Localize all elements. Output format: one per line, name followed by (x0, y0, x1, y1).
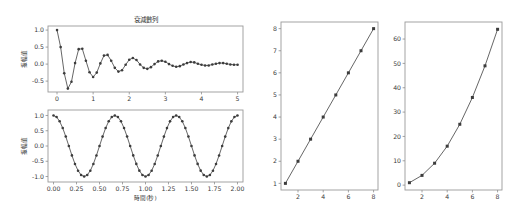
data-marker (236, 114, 239, 117)
data-marker (221, 145, 224, 148)
data-marker (446, 145, 449, 148)
data-marker (104, 127, 107, 130)
x-tick-label: 2.00 (231, 185, 245, 192)
y-tick-label: -0.5 (32, 157, 44, 164)
data-marker (68, 145, 71, 148)
data-marker (169, 120, 172, 123)
data-marker (144, 175, 147, 178)
plot-title: 衰減數列 (134, 15, 158, 24)
data-marker (372, 27, 375, 30)
data-marker (233, 116, 236, 119)
data-line (57, 30, 238, 89)
y-tick-label: 50 (393, 60, 401, 67)
data-marker (209, 174, 212, 177)
data-marker (171, 65, 174, 68)
data-marker (227, 127, 230, 130)
data-marker (64, 135, 67, 138)
data-marker (309, 138, 312, 141)
data-marker (150, 66, 153, 69)
data-marker (224, 135, 227, 138)
data-marker (114, 67, 117, 70)
data-marker (150, 169, 153, 172)
x-tick-label: 8 (372, 193, 376, 200)
data-marker (110, 59, 113, 62)
data-marker (433, 162, 436, 165)
data-marker (147, 174, 150, 177)
data-marker (107, 120, 110, 123)
data-marker (56, 29, 59, 32)
y-tick-label: 40 (393, 84, 401, 91)
data-marker (88, 71, 91, 74)
x-tick-label: 5 (236, 95, 240, 102)
data-marker (77, 48, 80, 51)
data-marker (284, 182, 287, 185)
axes-quadratic-series: 24680102030405060 (393, 22, 502, 200)
x-tick-label: 0.75 (116, 185, 130, 192)
data-marker (193, 61, 196, 64)
y-tick-label: 5 (273, 91, 277, 98)
data-marker (128, 58, 131, 61)
data-marker (63, 72, 66, 75)
data-marker (121, 69, 124, 72)
data-marker (496, 28, 499, 31)
data-marker (114, 114, 117, 117)
data-marker (117, 70, 120, 73)
data-marker (86, 174, 89, 177)
data-marker (124, 63, 127, 66)
data-marker (197, 62, 200, 65)
data-marker (218, 62, 221, 65)
axes-damped-sequence: 012345-0.50.00.51.0衰減數列振幅值 (20, 15, 243, 103)
data-marker (103, 54, 106, 57)
data-marker (190, 145, 193, 148)
data-marker (236, 63, 239, 66)
y-tick-label: 2 (273, 157, 277, 164)
x-tick-label: 1.50 (185, 185, 199, 192)
data-marker (222, 62, 225, 65)
data-marker (207, 64, 210, 67)
axes-linear-series: 246812345678 (273, 22, 378, 200)
data-marker (164, 60, 167, 63)
data-marker (168, 63, 171, 66)
data-marker (215, 163, 218, 166)
data-marker (157, 60, 160, 63)
x-tick-label: 3 (163, 95, 167, 102)
x-tick-label: 0.50 (93, 185, 107, 192)
data-marker (92, 163, 95, 166)
data-marker (408, 181, 411, 184)
data-marker (175, 114, 178, 117)
data-marker (123, 127, 126, 130)
data-marker (98, 145, 101, 148)
y-axis-label: 振幅值 (20, 50, 28, 68)
data-marker (297, 160, 300, 163)
data-marker (178, 116, 181, 119)
data-marker (139, 63, 142, 66)
x-tick-label: 2 (127, 95, 131, 102)
data-marker (233, 63, 236, 66)
data-marker (458, 123, 461, 126)
y-tick-label: 60 (393, 35, 401, 42)
y-tick-label: 8 (273, 25, 277, 32)
data-marker (153, 63, 156, 66)
data-marker (120, 120, 123, 123)
data-marker (186, 62, 189, 65)
data-marker (132, 57, 135, 60)
x-tick-label: 1.75 (208, 185, 222, 192)
data-marker (215, 62, 218, 65)
y-tick-label: 1.0 (34, 112, 44, 119)
y-tick-label: -1.0 (32, 173, 44, 180)
data-marker (184, 127, 187, 130)
data-marker (132, 154, 135, 157)
data-marker (153, 163, 156, 166)
y-tick-label: -0.5 (32, 77, 44, 84)
data-marker (196, 163, 199, 166)
data-marker (55, 116, 58, 119)
data-marker (421, 174, 424, 177)
x-tick-label: 1.25 (162, 185, 176, 192)
data-marker (138, 169, 141, 172)
data-line (54, 115, 238, 176)
data-marker (212, 169, 215, 172)
y-tick-label: 0.0 (34, 60, 44, 67)
y-axis-label: 振幅值 (20, 137, 28, 155)
x-tick-label: 2 (296, 193, 300, 200)
x-tick-label: 0.25 (70, 185, 84, 192)
